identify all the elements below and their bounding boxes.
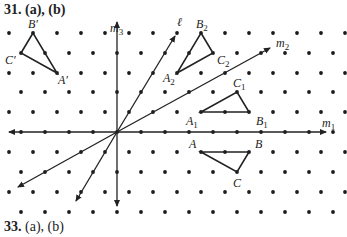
lattice-dot: [19, 170, 23, 174]
lattice-dot: [187, 210, 191, 214]
lattice-dot: [79, 110, 83, 114]
lattice-dot: [295, 150, 299, 154]
lattice-dot: [103, 110, 107, 114]
lattice-dot: [271, 110, 275, 114]
lattice-dot: [79, 31, 83, 35]
lattice-dot: [211, 210, 215, 214]
lattice-dot: [67, 51, 71, 55]
lattice-dot: [259, 90, 263, 94]
lattice-dot: [55, 190, 59, 194]
lattice-dot: [7, 71, 11, 75]
lattice-dot: [115, 210, 119, 214]
lattice-dot: [7, 110, 11, 114]
lattice-dot: [307, 170, 311, 174]
lattice-dot: [307, 210, 311, 214]
lattice-dot: [91, 210, 95, 214]
lattice-dot: [163, 90, 167, 94]
lattice-dot: [271, 31, 275, 35]
lattice-dot: [91, 90, 95, 94]
lattice-dot: [79, 71, 83, 75]
lattice-dot: [19, 90, 23, 94]
lattice-dot: [103, 190, 107, 194]
lattice-dot: [223, 190, 227, 194]
lattice-dot: [307, 90, 311, 94]
lattice-dot: [235, 51, 239, 55]
lattice-dot: [163, 210, 167, 214]
triangle-abc: [201, 152, 249, 172]
label-m3: m3: [110, 21, 124, 37]
lattice-dot: [7, 31, 11, 35]
label-b-prime: B′: [28, 17, 38, 31]
lattice-dot: [247, 31, 251, 35]
lattice-dot: [151, 190, 155, 194]
lattice-dots: [7, 31, 347, 214]
lattice-dot: [127, 31, 131, 35]
lattice-dot: [139, 170, 143, 174]
lattice-dot: [43, 90, 47, 94]
lattice-dot: [103, 71, 107, 75]
lattice-dot: [67, 90, 71, 94]
label-l: ℓ: [177, 15, 182, 29]
lattice-dot: [67, 170, 71, 174]
lattice-reflection-diagram: m3 ℓ m2 m1 B′ C′ A′ B2 C2 A2 C1 A1 B1 A …: [0, 0, 347, 237]
label-c-prime: C′: [5, 53, 16, 67]
label-c: C: [233, 176, 242, 190]
lattice-dot: [31, 150, 35, 154]
lattice-dot: [319, 190, 323, 194]
lattice-dot: [67, 210, 71, 214]
lattice-dot: [331, 210, 335, 214]
lattice-dot: [319, 31, 323, 35]
lattice-dot: [139, 210, 143, 214]
label-a-prime: A′: [57, 73, 68, 87]
lattice-dot: [127, 190, 131, 194]
lattice-dot: [319, 110, 323, 114]
lattice-dot: [139, 51, 143, 55]
lattice-dot: [283, 210, 287, 214]
label-c1: C1: [233, 76, 246, 92]
lattice-dot: [19, 210, 23, 214]
lattice-dot: [43, 210, 47, 214]
lattice-dot: [199, 71, 203, 75]
lattice-dot: [175, 31, 179, 35]
triangle-a2-b2-c2: [177, 33, 213, 73]
lattice-dot: [7, 190, 11, 194]
label-a2: A2: [162, 71, 175, 87]
lattice-dot: [211, 90, 215, 94]
lattice-dot: [31, 190, 35, 194]
lattice-dot: [343, 150, 347, 154]
lattice-dot: [199, 190, 203, 194]
lattice-dot: [55, 31, 59, 35]
exercise-33-heading: 33. (a), (b): [4, 219, 64, 235]
lattice-dot: [271, 190, 275, 194]
lattice-dot: [283, 90, 287, 94]
lattice-dot: [127, 150, 131, 154]
lattice-dot: [343, 110, 347, 114]
lattice-dot: [271, 71, 275, 75]
lattice-dot: [259, 170, 263, 174]
lattice-dot: [223, 31, 227, 35]
lattice-dot: [319, 71, 323, 75]
lattice-dot: [331, 51, 335, 55]
lattice-dot: [151, 31, 155, 35]
lattice-dot: [103, 31, 107, 35]
lattice-dot: [235, 210, 239, 214]
lattice-dot: [31, 110, 35, 114]
line-l-bottom: [76, 132, 117, 201]
lattice-dot: [31, 71, 35, 75]
lattice-dot: [211, 170, 215, 174]
label-c2: C2: [217, 53, 230, 69]
lattice-dot: [331, 90, 335, 94]
lattice-dot: [271, 150, 275, 154]
lattice-dot: [259, 210, 263, 214]
lattice-dot: [175, 110, 179, 114]
label-b2: B2: [196, 17, 208, 33]
lattice-dot: [127, 71, 131, 75]
lattice-dot: [91, 51, 95, 55]
label-b1: B1: [256, 114, 268, 130]
triangle-a-prime-b-prime-c-prime: [21, 33, 57, 73]
lattice-dot: [295, 71, 299, 75]
lattice-dot: [295, 190, 299, 194]
lattice-dot: [295, 110, 299, 114]
label-a1: A1: [185, 114, 198, 130]
label-a: A: [188, 137, 197, 151]
